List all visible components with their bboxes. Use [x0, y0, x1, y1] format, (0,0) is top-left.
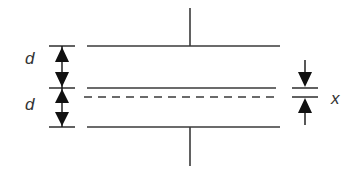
- d-label-bottom: d: [25, 95, 35, 114]
- background: [0, 0, 352, 173]
- x-label: x: [330, 89, 340, 108]
- capacitor-diagram: d d x: [0, 0, 352, 173]
- d-label-top: d: [25, 49, 35, 68]
